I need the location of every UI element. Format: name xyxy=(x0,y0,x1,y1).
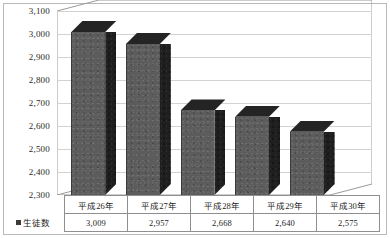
plot-area xyxy=(57,11,372,195)
gridline xyxy=(57,172,372,173)
gridline xyxy=(57,103,372,104)
table-corner-cell xyxy=(15,196,65,214)
gridline xyxy=(57,57,372,58)
gridline xyxy=(57,149,372,150)
y-axis-tick-label: 2,400 xyxy=(29,167,50,177)
table-header-cell: 平成29年 xyxy=(254,196,317,214)
table-header-cell: 平成30年 xyxy=(317,196,380,214)
three-d-walls xyxy=(57,0,372,195)
y-axis-tick-label: 3,100 xyxy=(29,6,50,16)
legend-entry: 生徒数 xyxy=(15,214,65,232)
chart-container: 3,1003,0002,9002,8002,7002,6002,5002,400… xyxy=(0,0,390,238)
data-table: 平成26年平成27年平成28年平成29年平成30年 生徒数 3,0092,957… xyxy=(15,195,380,232)
y-axis-tick-label: 2,600 xyxy=(29,121,50,131)
gridline xyxy=(57,80,372,81)
table-header-cell: 平成26年 xyxy=(65,196,128,214)
gridline xyxy=(57,126,372,127)
table-header-cell: 平成28年 xyxy=(191,196,254,214)
table-value-cell: 3,009 xyxy=(65,214,128,232)
y-axis: 3,1003,0002,9002,8002,7002,6002,5002,400… xyxy=(0,11,55,195)
legend-label: 生徒数 xyxy=(23,219,51,229)
legend-swatch-icon xyxy=(16,220,21,225)
table-value-cell: 2,668 xyxy=(191,214,254,232)
y-axis-tick-label: 3,000 xyxy=(29,29,50,39)
table-value-cell: 2,640 xyxy=(254,214,317,232)
table-header-cell: 平成27年 xyxy=(128,196,191,214)
y-axis-tick-label: 2,500 xyxy=(29,144,50,154)
table-value-cell: 2,957 xyxy=(128,214,191,232)
gridline xyxy=(57,34,372,35)
y-axis-tick-label: 2,900 xyxy=(29,52,50,62)
table-row-values: 生徒数 3,0092,9572,6682,6402,575 xyxy=(15,214,380,232)
y-axis-tick-label: 2,800 xyxy=(29,75,50,85)
table-value-cell: 2,575 xyxy=(317,214,380,232)
table-row-categories: 平成26年平成27年平成28年平成29年平成30年 xyxy=(15,196,380,214)
y-axis-tick-label: 2,700 xyxy=(29,98,50,108)
gridline xyxy=(57,11,372,12)
